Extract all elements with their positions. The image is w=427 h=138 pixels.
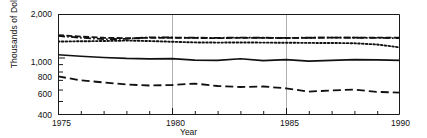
x-tick-1975: 1975: [52, 118, 71, 128]
axis-frame: [59, 15, 400, 115]
chart-canvas: [58, 14, 400, 115]
series-line-long-dashed-series: [58, 76, 400, 92]
series-line-dotted-series: [58, 41, 400, 48]
x-tick-1990: 1990: [391, 118, 410, 128]
y-axis-tick-labels: 2,000 1,000 800 600 400: [16, 0, 52, 138]
series-layer: [58, 35, 400, 93]
y-tick-1000: 1,000: [18, 58, 52, 66]
x-axis-title: Year: [180, 127, 197, 137]
plot-area: [58, 14, 400, 115]
y-tick-400: 400: [18, 111, 52, 119]
y-tick-800: 800: [18, 73, 52, 81]
x-tick-1985: 1985: [280, 118, 299, 128]
chart-figure: Thousands of Dollars 2,000 1,000 800 600…: [0, 0, 427, 138]
y-tick-600: 600: [18, 90, 52, 98]
x-tick-marks: [59, 108, 401, 115]
y-tick-2000: 2,000: [18, 10, 52, 18]
gridlines: [173, 14, 287, 115]
series-line-solid-series: [58, 55, 400, 61]
y-tick-marks: [58, 15, 65, 116]
series-line-dashed-series: [58, 35, 400, 38]
